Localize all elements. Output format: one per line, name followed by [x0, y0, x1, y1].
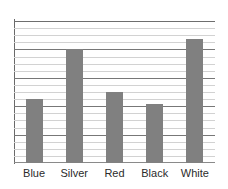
bar-black	[146, 104, 163, 163]
bar-series	[14, 21, 215, 163]
bar-silver	[66, 49, 83, 163]
bar-blue	[26, 99, 43, 163]
x-axis-label-red: Red	[94, 166, 134, 180]
x-axis-label-white: White	[175, 166, 215, 180]
x-axis-label-black: Black	[135, 166, 175, 180]
x-axis-label-blue: Blue	[14, 166, 54, 180]
x-axis-label-silver: Silver	[54, 166, 94, 180]
bar-chart: BlueSilverRedBlackWhite	[0, 0, 228, 189]
plot-area	[14, 21, 215, 163]
bar-white	[186, 39, 203, 163]
bar-red	[106, 92, 123, 163]
x-axis-labels: BlueSilverRedBlackWhite	[14, 166, 215, 184]
